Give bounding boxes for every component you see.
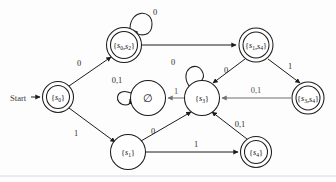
edge-label-s4-to-s3: 0,1 [235, 120, 245, 129]
state-s3-s4[interactable]: {s3,s4} [292, 82, 324, 114]
edge-label-s1-to-s3: 0 [151, 127, 155, 136]
state-s0-s2-label: {s0,s2} [113, 41, 135, 51]
start-label: Start [10, 93, 27, 103]
edge-label-s3-to-empty: 1 [174, 87, 178, 96]
edge-label-s3-self: 0 [171, 58, 175, 67]
state-empty-set-label: ∅ [143, 93, 153, 104]
edge-label-s1s4-to-s3: 0 [224, 66, 228, 75]
edge-label-s0s2-self: 0 [153, 8, 157, 17]
state-empty-set[interactable]: ∅ [131, 81, 166, 116]
state-s3-s4-label: {s3,s4} [297, 94, 319, 104]
state-s1-label: {s1} [121, 148, 135, 158]
edge-label-s3s4-to-s3: 0,1 [251, 86, 261, 95]
state-s3-label: {s3} [195, 94, 209, 104]
state-s1[interactable]: {s1} [111, 135, 146, 170]
edge-s0-to-s0s2 [69, 57, 111, 86]
edge-label-s0-to-s0s2: 0 [77, 59, 81, 68]
state-s0-label: {s0} [51, 93, 65, 103]
edge-s1s4-to-s3 [213, 59, 245, 83]
automaton-canvas: {s0} {s0,s2} {s1,s4} {s3,s4} ∅ {s3 [0, 0, 336, 182]
state-s3[interactable]: {s3} [185, 81, 220, 116]
state-s1-s4-label: {s1,s4} [245, 41, 267, 51]
state-s1-s4[interactable]: {s1,s4} [239, 28, 273, 62]
edge-s1s4-to-s3s4 [268, 59, 300, 83]
state-s0[interactable]: {s0} [43, 82, 74, 113]
edge-label-empty-self: 0,1 [112, 76, 122, 85]
state-s4[interactable]: {s4} [241, 137, 272, 168]
state-s0-s2[interactable]: {s0,s2} [107, 28, 142, 63]
automaton-diagram: {s0} {s0,s2} {s1,s4} {s3,s4} ∅ {s3 [0, 0, 336, 182]
edge-label-s1s4-to-s3s4: 1 [288, 62, 292, 71]
edge-label-s1-to-s4: 1 [194, 140, 198, 149]
state-s4-label: {s4} [249, 148, 263, 158]
edge-s1-to-s3 [141, 112, 191, 141]
edge-empty-self-loop [117, 91, 131, 105]
edge-label-s0-to-s1: 1 [74, 129, 78, 138]
